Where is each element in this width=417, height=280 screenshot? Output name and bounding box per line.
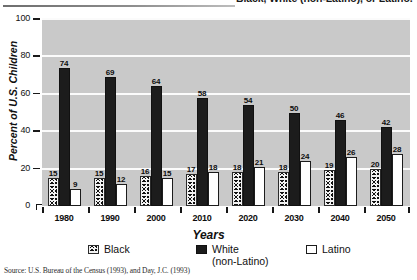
bar-black-1980[interactable]: 15 [48, 178, 59, 206]
bar-group: 194626 [324, 19, 357, 206]
bar-black-2040[interactable]: 19 [324, 170, 335, 206]
bar-white-non-latino-1990[interactable]: 69 [105, 77, 116, 206]
bar-white-non-latino-2020[interactable]: 54 [243, 105, 254, 206]
bar-group: 166415 [140, 19, 173, 206]
x-tick-mark [226, 207, 228, 213]
x-tick-mark [408, 207, 410, 213]
bar-value-label: 74 [60, 59, 69, 68]
bar-value-label: 69 [106, 68, 115, 77]
bar-white-non-latino-2040[interactable]: 46 [335, 120, 346, 206]
legend-item-black[interactable]: Black [88, 243, 130, 255]
bar-value-label: 26 [347, 148, 356, 157]
bar-black-2020[interactable]: 18 [232, 172, 243, 206]
legend-item-white[interactable]: White (non-Latino) [196, 243, 269, 267]
y-tick-label: 60 [4, 88, 30, 98]
bar-black-2010[interactable]: 17 [186, 174, 197, 206]
bar-value-label: 21 [255, 158, 264, 167]
y-tick-mark [33, 130, 40, 132]
bar-value-label: 15 [95, 169, 104, 178]
bar-value-label: 24 [301, 152, 310, 161]
x-tick-label: 1990 [90, 213, 130, 223]
bar-value-label: 46 [336, 111, 345, 120]
bar-value-label: 64 [152, 77, 161, 86]
bar-value-label: 54 [244, 96, 253, 105]
x-axis-title: Years [0, 228, 417, 242]
bar-value-label: 19 [325, 161, 334, 170]
x-tick-label: 2040 [320, 213, 360, 223]
x-tick-label: 1980 [44, 213, 84, 223]
legend-swatch-icon [196, 245, 207, 254]
bar-value-label: 42 [382, 118, 391, 127]
bar-value-label: 58 [198, 89, 207, 98]
x-axis: 19801990200020102020203020402050 [42, 206, 410, 228]
y-tick-mark [33, 93, 40, 95]
bar-value-label: 15 [49, 169, 58, 178]
bar-white-non-latino-2010[interactable]: 58 [197, 98, 208, 206]
bar-white-non-latino-2000[interactable]: 64 [151, 86, 162, 206]
x-tick-label: 2000 [136, 213, 176, 223]
bar-value-label: 20 [371, 160, 380, 169]
bar-group: 156912 [94, 19, 127, 206]
y-axis-title: Percent of U.S. Children [7, 26, 19, 176]
x-tick-mark [88, 207, 90, 213]
bar-value-label: 9 [73, 180, 77, 189]
source-note: Source: U.S. Bureau of the Census (1993)… [4, 266, 190, 275]
bar-latino-2020[interactable]: 21 [254, 167, 265, 206]
bar-value-label: 18 [233, 163, 242, 172]
legend-swatch-icon [306, 245, 317, 254]
bar-white-non-latino-1980[interactable]: 74 [59, 68, 70, 206]
x-tick-mark [134, 207, 136, 213]
plot-area: 1574915691216641517581818542118502419462… [42, 19, 410, 206]
x-tick-mark [42, 207, 44, 213]
x-tick-mark [180, 207, 182, 213]
x-tick-mark [364, 207, 366, 213]
bar-group: 15749 [48, 19, 81, 206]
bar-black-2050[interactable]: 20 [370, 169, 381, 206]
x-tick-mark [318, 207, 320, 213]
legend-item-latino[interactable]: Latino [306, 243, 351, 255]
bar-black-2030[interactable]: 18 [278, 172, 289, 206]
legend-swatch-icon [88, 245, 99, 254]
y-tick-label: 40 [4, 125, 30, 135]
bar-value-label: 16 [141, 167, 150, 176]
bar-latino-1990[interactable]: 12 [116, 184, 127, 206]
bar-group: 185421 [232, 19, 265, 206]
bar-white-non-latino-2030[interactable]: 50 [289, 113, 300, 207]
y-tick-label: 100 [4, 13, 30, 23]
y-tick-label: 80 [4, 50, 30, 60]
bar-latino-2010[interactable]: 18 [208, 172, 219, 206]
bar-latino-2040[interactable]: 26 [346, 157, 357, 206]
x-tick-mark [272, 207, 274, 213]
bar-latino-2000[interactable]: 15 [162, 178, 173, 206]
bar-white-non-latino-2050[interactable]: 42 [381, 127, 392, 206]
bar-value-label: 17 [187, 165, 196, 174]
bar-group: 175818 [186, 19, 219, 206]
y-tick-label: 20 [4, 163, 30, 173]
bar-value-label: 28 [393, 145, 402, 154]
y-tick-mark [33, 55, 40, 57]
x-tick-label: 2030 [274, 213, 314, 223]
x-tick-label: 2010 [182, 213, 222, 223]
legend-label: White (non-Latino) [212, 243, 269, 267]
x-tick-label: 2050 [366, 213, 406, 223]
chart-title: Black, White (non-Latino), or Latino. [236, 0, 413, 4]
bar-black-1990[interactable]: 15 [94, 178, 105, 206]
bar-value-label: 12 [117, 175, 126, 184]
bar-value-label: 15 [163, 169, 172, 178]
bar-black-2000[interactable]: 16 [140, 176, 151, 206]
bar-value-label: 18 [279, 163, 288, 172]
bar-latino-2030[interactable]: 24 [300, 161, 311, 206]
bar-group: 204228 [370, 19, 403, 206]
title-rule [3, 5, 235, 7]
legend-label: Latino [322, 243, 351, 255]
y-tick-mark [33, 18, 40, 20]
legend-label: Black [104, 243, 130, 255]
bar-group: 185024 [278, 19, 311, 206]
bar-value-label: 50 [290, 104, 299, 113]
x-tick-label: 2020 [228, 213, 268, 223]
bar-value-label: 18 [209, 163, 218, 172]
bar-latino-2050[interactable]: 28 [392, 154, 403, 206]
bar-latino-1980[interactable]: 9 [70, 189, 81, 206]
title-band: Black, White (non-Latino), or Latino. [0, 0, 417, 13]
y-tick-mark [33, 168, 40, 170]
